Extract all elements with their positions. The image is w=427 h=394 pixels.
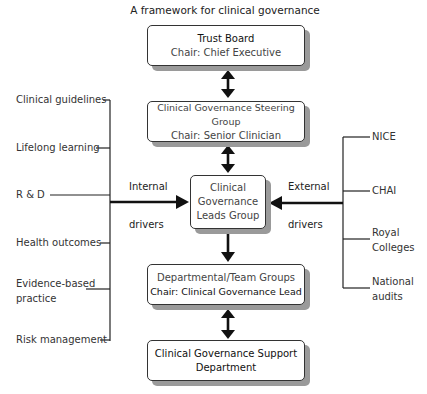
- double-arrow-departmental-support: [221, 309, 235, 339]
- internal-driver-item: Lifelong learning: [16, 140, 100, 155]
- leads-group-line1: Clinical: [191, 181, 265, 195]
- arrow-leads-departmental: [221, 232, 235, 262]
- internal-drivers-label: drivers: [129, 219, 164, 230]
- double-arrow-steering-leads: [221, 145, 235, 173]
- external-driver-item: Royal Colleges: [372, 225, 415, 255]
- steering-group-chair: Chair: Senior Clinician: [148, 129, 304, 143]
- support-box: Clinical Governance Support Department: [147, 340, 305, 381]
- internal-label: Internal: [129, 181, 168, 192]
- leads-group-line3: Leads Group: [191, 209, 265, 223]
- external-label: External: [288, 181, 330, 192]
- trust-board-box: Trust Board Chair: Chief Executive: [147, 25, 305, 66]
- internal-driver-item: Health outcomes: [16, 235, 101, 250]
- internal-driver-item-line2: practice: [16, 291, 95, 306]
- external-drivers-arrow: [269, 196, 343, 210]
- internal-driver-item: R & D: [16, 187, 45, 202]
- leads-group-box: Clinical Governance Leads Group: [190, 175, 266, 229]
- internal-driver-item: Clinical guidelines: [16, 92, 106, 107]
- internal-driver-item: Risk management: [16, 332, 107, 347]
- external-driver-item-line2: Colleges: [372, 240, 415, 255]
- external-driver-item: National audits: [372, 274, 414, 304]
- external-driver-item-line1: Royal: [372, 225, 415, 240]
- double-arrow-board-steering: [221, 70, 235, 98]
- departmental-title: Departmental/Team Groups: [148, 271, 304, 285]
- internal-driver-item-line1: Evidence-based: [16, 276, 95, 291]
- leads-group-line2: Governance: [191, 195, 265, 209]
- external-drivers-label: drivers: [288, 219, 323, 230]
- internal-drivers-arrow: [110, 195, 189, 209]
- external-driver-item-line1: National: [372, 274, 414, 289]
- external-driver-item: NICE: [372, 129, 396, 144]
- support-title: Clinical Governance Support: [148, 347, 304, 361]
- external-driver-item: CHAI: [372, 183, 396, 198]
- support-title-2: Department: [148, 361, 304, 375]
- trust-board-chair: Chair: Chief Executive: [148, 46, 304, 60]
- trust-board-title: Trust Board: [148, 32, 304, 46]
- departmental-box: Departmental/Team Groups Chair: Clinical…: [147, 264, 305, 305]
- external-drivers-bracket: [343, 137, 370, 288]
- internal-driver-item: Evidence-based practice: [16, 276, 95, 306]
- departmental-chair: Chair: Clinical Governance Lead: [148, 285, 304, 299]
- steering-group-title: Clinical Governance Steering Group: [148, 101, 304, 129]
- steering-group-box: Clinical Governance Steering Group Chair…: [147, 101, 305, 142]
- external-driver-item-line2: audits: [372, 289, 414, 304]
